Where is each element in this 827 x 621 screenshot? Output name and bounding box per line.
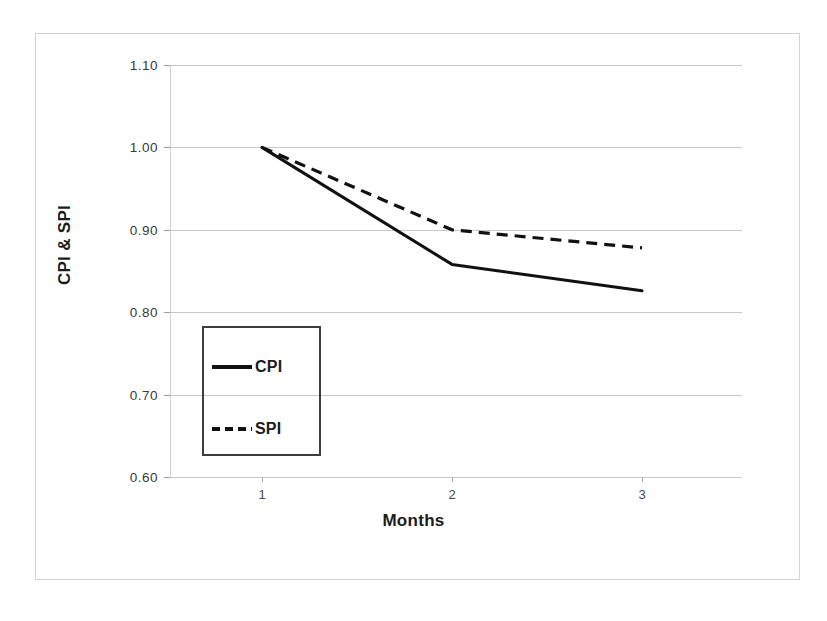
gridline [170,230,742,231]
legend-item-cpi: CPI [212,358,282,376]
y-tick-mark [164,477,170,478]
x-tick-mark [452,477,453,482]
y-tick-label: 0.80 [98,305,158,320]
x-axis-title: Months [0,511,827,531]
y-tick-label: 0.90 [98,222,158,237]
x-tick-mark [642,477,643,482]
y-tick-label: 0.60 [98,470,158,485]
gridline [170,147,742,148]
y-tick-mark [164,312,170,313]
y-tick-mark [164,147,170,148]
legend-label-spi: SPI [255,420,281,438]
y-axis-title: CPI & SPI [55,155,75,335]
legend-label-cpi: CPI [255,358,282,376]
x-tick-label: 1 [242,487,282,502]
chart-page: 1.101.000.900.800.700.60 123 CPI SPI Mon… [0,0,827,621]
gridline [170,312,742,313]
y-tick-label: 0.70 [98,387,158,402]
y-tick-mark [164,230,170,231]
x-tick-label: 2 [432,487,472,502]
gridline [170,477,742,478]
y-tick-label: 1.00 [98,140,158,155]
legend-item-spi: SPI [212,420,281,438]
y-tick-label: 1.10 [98,58,158,73]
y-tick-mark [164,65,170,66]
x-tick-mark [262,477,263,482]
dashed-line-swatch-icon [212,427,252,431]
gridline [170,65,742,66]
x-tick-label: 3 [622,487,662,502]
y-tick-mark [164,395,170,396]
chart-legend: CPI SPI [202,326,321,456]
solid-line-swatch-icon [212,365,252,369]
